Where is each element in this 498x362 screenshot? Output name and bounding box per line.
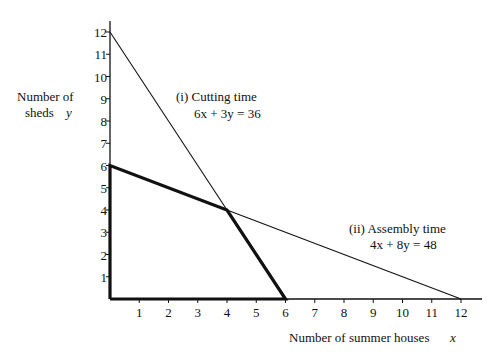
x-tick-label: 3 — [195, 305, 202, 320]
y-tick-label: 1 — [101, 270, 108, 285]
y-tick-label: 2 — [101, 248, 108, 263]
annotation-assembly-equation: 4x + 8y = 48 — [370, 237, 437, 253]
x-tick-label: 4 — [224, 305, 231, 320]
chart-plot: 123456789101112123456789101112 — [0, 0, 498, 362]
x-tick-label: 10 — [396, 305, 409, 320]
x-tick-label: 5 — [253, 305, 260, 320]
x-tick-label: 7 — [312, 305, 319, 320]
annotation-cutting-equation: 6x + 3y = 36 — [194, 106, 261, 122]
y-tick-label: 11 — [94, 47, 107, 62]
y-tick-label: 6 — [101, 159, 108, 174]
x-tick-label: 6 — [282, 305, 289, 320]
feasible-region-boundary — [110, 166, 286, 300]
y-tick-label: 10 — [94, 70, 107, 85]
x-axis-label: Number of summer houses — [289, 330, 429, 346]
y-tick-label: 9 — [101, 92, 108, 107]
x-tick-label: 12 — [455, 305, 468, 320]
x-tick-label: 9 — [370, 305, 377, 320]
y-tick-label: 5 — [101, 181, 108, 196]
annotation-assembly-title: (ii) Assembly time — [349, 221, 446, 237]
x-axis-variable: x — [450, 330, 456, 346]
y-tick-label: 3 — [101, 225, 108, 240]
y-tick-label: 8 — [101, 114, 108, 129]
y-axis-label-line2: sheds — [25, 105, 54, 121]
annotation-cutting-title: (i) Cutting time — [176, 89, 257, 105]
x-tick-label: 1 — [136, 305, 143, 320]
x-tick-label: 8 — [341, 305, 348, 320]
y-tick-label: 4 — [101, 203, 108, 218]
x-tick-label: 2 — [165, 305, 172, 320]
x-tick-label: 11 — [425, 305, 438, 320]
y-axis-variable: y — [66, 105, 72, 121]
y-axis-label-line1: Number of — [17, 89, 74, 105]
y-tick-label: 12 — [94, 25, 107, 40]
y-tick-label: 7 — [101, 136, 108, 151]
